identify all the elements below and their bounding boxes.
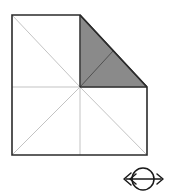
geometry-figure (0, 0, 169, 196)
